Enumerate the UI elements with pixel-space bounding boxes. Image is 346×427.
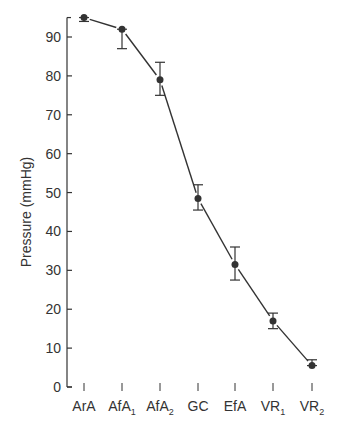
data-point-marker [119,26,126,33]
series-line-segment [238,269,269,315]
data-point-marker [309,362,316,369]
x-category-label: VR1 [261,398,285,417]
series-line-segment [126,34,157,75]
y-axis-title: Pressure (mmHg) [18,157,34,267]
x-category-label: EfA [224,398,247,414]
x-category-label: VR2 [300,398,324,417]
y-tick-label: 40 [45,223,61,239]
y-tick-label: 90 [45,29,61,45]
series-line-segment [162,85,196,192]
y-tick-label: 50 [45,185,61,201]
x-category-label: AfA2 [146,398,174,417]
data-point-marker [81,14,88,21]
y-tick-label: 0 [53,379,61,395]
y-axis: 0102030405060708090 [45,18,72,395]
data-point-marker [232,261,239,268]
x-category-label: ArA [72,398,96,414]
data-series [79,14,317,369]
y-tick-label: 20 [45,301,61,317]
y-tick-label: 10 [45,340,61,356]
x-axis: ArAAfA1AfA2GCEfAVR1VR2 [72,383,324,417]
pressure-line-chart: 0102030405060708090 ArAAfA1AfA2GCEfAVR1V… [0,0,346,427]
y-tick-label: 80 [45,68,61,84]
y-tick-label: 60 [45,146,61,162]
series-line-segment [201,204,232,260]
y-tick-label: 70 [45,107,61,123]
series-line-segment [90,19,117,27]
x-category-label: GC [188,398,209,414]
data-point-marker [195,195,202,202]
data-point-marker [270,317,277,324]
data-point-marker [157,76,164,83]
y-tick-label: 30 [45,262,61,278]
x-category-label: AfA1 [108,398,136,417]
series-line-segment [277,325,308,361]
